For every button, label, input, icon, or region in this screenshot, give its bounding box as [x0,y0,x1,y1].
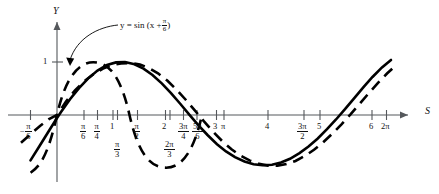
x-tick-label-pi-3: π3 [114,140,120,158]
x-tick-label-2pi: 2π [381,122,390,131]
trig-graph-figure: Y S 1 y = sin (x +π6) −π6 π6 π4 1 π3 π2 … [0,0,439,194]
x-tick-label-4: 4 [265,122,269,131]
x-axis-arrowhead [400,112,408,119]
equation-rhs: ) [167,20,170,30]
x-axis [8,112,408,119]
x-tick-label-pi: π [221,122,225,131]
curve-sin-x-plus-pi-6-plot [31,60,392,165]
x-tick-label-5: 5 [317,122,321,131]
x-tick-label-6: 6 [369,122,373,131]
graph-canvas [0,0,439,194]
x-tick-label-5pi-6: 5π6 [192,122,203,140]
x-tick-label-2: 2 [162,122,166,131]
x-tick-label-3: 3 [213,122,217,131]
equation-annotation: y = sin (x +π6) [120,18,170,33]
x-tick-label-pi-6: π6 [80,122,86,140]
x-tick-label-pi-4: π4 [94,122,100,140]
y-axis-arrowhead [54,22,61,30]
x-tick-label-1: 1 [110,122,114,131]
y-tick-label-1: 1 [43,57,47,66]
y-axis-label: Y [53,6,59,16]
x-axis-label: S [425,106,430,116]
annotation-leader-arrow [66,25,118,66]
x-tick-label-3pi-2: 3π2 [297,122,308,140]
equation-lhs: y = sin (x + [120,20,162,30]
x-tick-label-neg-pi-6: −π6 [20,122,32,140]
x-tick-label-2pi-3: 2π3 [164,140,175,158]
x-tick-label-3pi-4: 3π4 [178,122,189,140]
x-tick-label-pi-2: π2 [134,122,140,140]
annotation-arrowhead [66,58,74,66]
